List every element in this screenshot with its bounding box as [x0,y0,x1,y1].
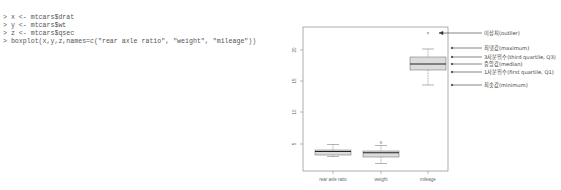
y-tick-15: 15 [292,78,297,84]
label-median: 중앙값(median) [484,60,523,68]
x-tick-labels: rear axle ratio weight mileage [319,177,436,182]
label-q3: 3사분위수(third quartile, Q3) [484,53,556,61]
box-weight [363,142,399,164]
x-label-rear-axle-ratio: rear axle ratio [319,177,347,182]
box-mileage [410,32,446,85]
x-label-mileage: mileage [420,177,436,182]
y-tick-labels: 20 15 10 5 [292,47,297,145]
label-q1: 1사분위수(first quartile, Q1) [484,68,554,76]
annotation-labels: 이상치(outlier) 최댓값(maximum) 3사분위수(third qu… [484,29,556,89]
x-label-weight: weight [374,177,388,182]
label-minimum: 최솟값(minimum) [484,81,528,89]
y-tick-5: 5 [292,142,297,145]
boxplot-chart: 20 15 10 5 rear axle ratio weight mileag… [0,0,561,190]
y-tick-20: 20 [292,47,297,53]
label-outlier: 이상치(outlier) [484,29,520,37]
plot-frame [303,27,448,171]
label-maximum: 최댓값(maximum) [484,44,529,52]
box-rear-axle-ratio [315,145,351,157]
y-tick-10: 10 [292,109,297,115]
